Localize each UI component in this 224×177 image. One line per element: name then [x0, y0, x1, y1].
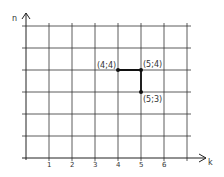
path-segment [118, 70, 141, 92]
lattice-point [139, 90, 143, 94]
lattice-path [118, 70, 141, 92]
x-tick-label: 5 [139, 161, 143, 169]
lattice-diagram: n k 123456 (4;4)(5;4)(5;3) [0, 0, 224, 177]
point-label: (5;3) [143, 95, 162, 104]
point-label: (4;4) [97, 61, 116, 70]
x-tick-labels: 123456 [47, 161, 167, 169]
lattice-point [116, 68, 120, 72]
grid [22, 23, 191, 161]
x-tick-label: 4 [116, 161, 121, 169]
point-label: (5;4) [143, 60, 162, 69]
points: (4;4)(5;4)(5;3) [97, 60, 162, 104]
x-tick-label: 1 [47, 161, 51, 169]
x-tick-label: 6 [162, 161, 167, 169]
x-tick-label: 3 [93, 161, 97, 169]
x-axis-label: k [208, 158, 213, 167]
axes: n k [12, 13, 213, 167]
x-tick-label: 2 [70, 161, 74, 169]
y-axis-label: n [12, 14, 17, 23]
